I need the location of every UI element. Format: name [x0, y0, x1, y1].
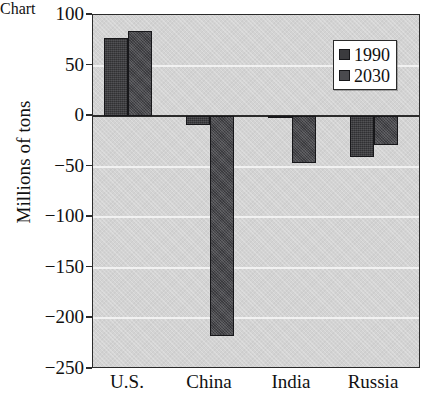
- chart-title: [120, 0, 370, 4]
- bar[interactable]: [186, 116, 210, 125]
- y-tick-label: −100: [0, 206, 84, 225]
- bar[interactable]: [104, 38, 128, 116]
- x-tick-label: India: [250, 372, 332, 392]
- bar[interactable]: [268, 116, 292, 118]
- gridline: [93, 166, 419, 168]
- x-tick-label: U.S.: [86, 372, 168, 392]
- chart-figure: Millions of tons 100500−50−100−150−200−2…: [0, 0, 426, 403]
- legend-item[interactable]: 2030: [339, 65, 390, 86]
- legend-item[interactable]: 1990: [339, 44, 390, 65]
- legend-swatch-icon: [339, 70, 350, 81]
- bar[interactable]: [374, 116, 398, 145]
- legend-swatch-icon: [339, 49, 350, 60]
- bar[interactable]: [292, 116, 316, 163]
- chart-legend[interactable]: 19902030: [333, 40, 397, 90]
- y-tick-label: 0: [0, 105, 84, 124]
- y-tick-label: −150: [0, 257, 84, 276]
- bar[interactable]: [210, 116, 234, 335]
- gridline: [93, 317, 419, 319]
- bar[interactable]: [128, 31, 152, 116]
- legend-label: 1990: [354, 46, 390, 64]
- y-tick-label: 50: [0, 55, 84, 74]
- y-tick-label: −200: [0, 307, 84, 326]
- legend-label: 2030: [354, 67, 390, 85]
- gridline: [93, 216, 419, 218]
- y-tick-label: 100: [0, 4, 84, 23]
- bar[interactable]: [350, 116, 374, 156]
- y-tick-label: −250: [0, 358, 84, 377]
- x-tick-label: China: [168, 372, 250, 392]
- y-tick-label: −50: [0, 156, 84, 175]
- x-tick-label: Russia: [332, 372, 414, 392]
- gridline: [93, 267, 419, 269]
